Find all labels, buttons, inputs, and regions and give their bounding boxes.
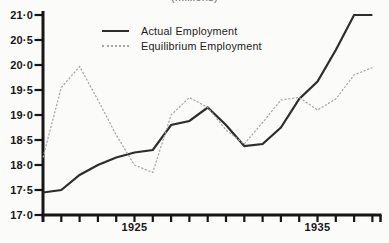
employment-chart-figure: (millions) Actual Employment Equilibrium…	[0, 0, 389, 243]
equilibrium-dotted-line-sample	[102, 45, 129, 47]
legend-item-equilibrium: Equilibrium Employment	[102, 38, 262, 53]
y-tick-label: 21·0	[2, 9, 33, 21]
y-tick-label: 19·0	[2, 109, 33, 121]
y-tick-label: 20·0	[2, 59, 33, 71]
actual-solid-line-sample	[102, 30, 129, 32]
x-tick-label-1925: 1925	[117, 221, 153, 233]
y-tick-label: 19·5	[2, 84, 33, 96]
legend-label-actual: Actual Employment	[141, 25, 237, 37]
y-tick-label: 18·0	[2, 159, 33, 171]
equilibrium-employment-line	[43, 67, 372, 173]
x-tick-label-1935: 1935	[300, 221, 336, 233]
legend-label-equilibrium: Equilibrium Employment	[141, 40, 262, 52]
y-tick-label: 20·5	[2, 34, 33, 46]
y-tick-label: 17·5	[2, 184, 33, 196]
legend: Actual Employment Equilibrium Employment	[102, 23, 262, 53]
y-tick-label: 17·0	[2, 209, 33, 221]
legend-item-actual: Actual Employment	[102, 23, 262, 38]
y-tick-label: 18·5	[2, 134, 33, 146]
